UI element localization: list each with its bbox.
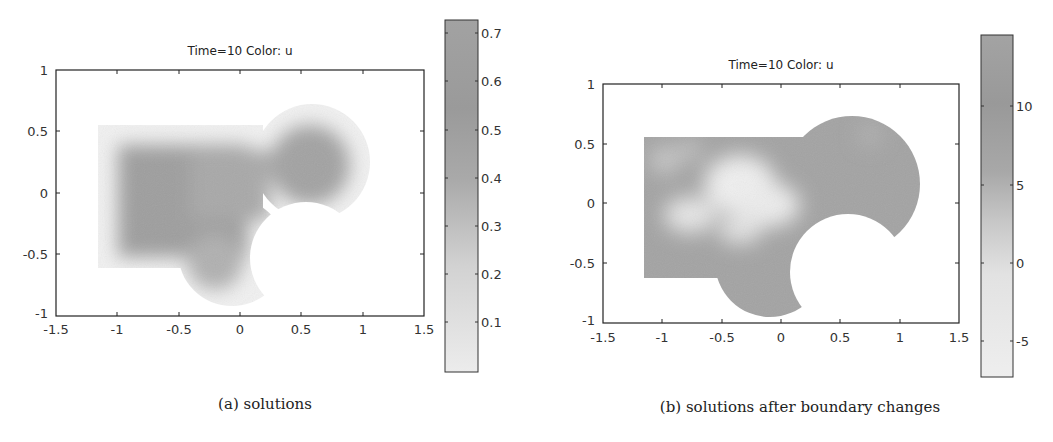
colorbar-tick: -5	[1016, 334, 1029, 349]
plot-a-colorbar: 0.7 0.6 0.5 0.4 0.3 0.2 0.1	[445, 20, 502, 372]
plot-b-field	[603, 84, 959, 323]
y-tick: 0.5	[27, 124, 48, 139]
caption-b: (b) solutions after boundary changes	[660, 398, 940, 416]
colorbar-tick: 0.7	[481, 26, 502, 41]
colorbar-tick: 0.4	[481, 171, 502, 186]
colorbar-tick: 0.1	[481, 315, 502, 330]
plot-a-x-tick-labels: -1.5 -1 -0.5 0 0.5 1 1.5	[43, 322, 434, 337]
colorbar-tick: 10	[1016, 99, 1033, 114]
plot-b-title: Time=10 Color: u	[727, 58, 833, 72]
y-tick: -1	[35, 306, 48, 321]
caption-a: (a) solutions	[218, 395, 312, 413]
x-tick: 0	[777, 330, 785, 345]
plot-a-y-tick-labels: 1 0.5 0 -0.5 -1	[23, 63, 48, 321]
y-tick: 1	[40, 63, 48, 78]
x-tick: -1	[111, 322, 124, 337]
y-tick: 0.5	[574, 137, 595, 152]
x-tick: 1	[896, 330, 904, 345]
y-tick: 1	[587, 77, 595, 92]
plot-a-title: Time=10 Color: u	[186, 44, 292, 58]
colorbar-tick: 0.3	[481, 219, 502, 234]
x-tick: 0.5	[291, 322, 312, 337]
y-tick: 0	[587, 196, 595, 211]
plot-b-x-tick-labels: -1.5 -1 -0.5 0 0.5 1 1.5	[590, 330, 969, 345]
x-tick: 0	[236, 322, 244, 337]
x-tick: -1	[656, 330, 669, 345]
plot-a-field	[56, 70, 424, 316]
colorbar-tick: 0.6	[481, 74, 502, 89]
plot-b-y-tick-labels: 1 0.5 0 -0.5 -1	[570, 77, 595, 328]
x-tick: 0.5	[830, 330, 851, 345]
x-tick: -0.5	[166, 322, 191, 337]
x-tick: 1	[359, 322, 367, 337]
y-tick: -0.5	[23, 247, 48, 262]
colorbar-tick: 0.2	[481, 267, 502, 282]
x-tick: 1.5	[414, 322, 435, 337]
x-tick: -1.5	[43, 322, 68, 337]
x-tick: -0.5	[709, 330, 734, 345]
colorbar-tick: 0.5	[481, 123, 502, 138]
colorbar-tick: 0	[1016, 256, 1024, 271]
y-tick: -1	[582, 313, 595, 328]
y-tick: 0	[40, 186, 48, 201]
plot-a: Time=10 Color: u -1.5	[23, 20, 502, 372]
colorbar-tick: 5	[1016, 178, 1024, 193]
x-tick: 1.5	[949, 330, 970, 345]
x-tick: -1.5	[590, 330, 615, 345]
plot-b: Time=10 Color: u	[570, 35, 1033, 377]
y-tick: -0.5	[570, 256, 595, 271]
plot-b-colorbar: 10 5 0 -5	[981, 35, 1033, 377]
figure-canvas: Time=10 Color: u -1.5	[0, 0, 1053, 442]
